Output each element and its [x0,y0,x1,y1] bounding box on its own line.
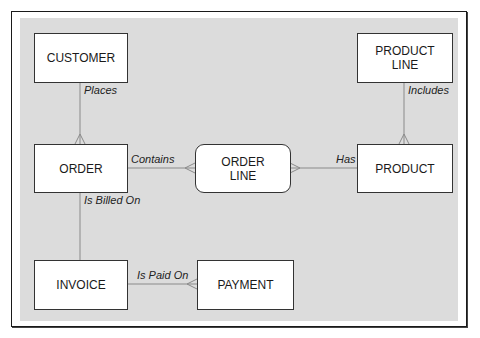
relationship-label-is-billed-on: Is Billed On [84,194,140,206]
entity-label: PRODUCT [375,162,434,176]
entity-label: PRODUCT LINE [375,44,434,72]
relationship-label-contains: Contains [131,153,174,165]
relationship-label-places: Places [84,84,117,96]
entity-payment[interactable]: PAYMENT [197,260,294,310]
entity-label: INVOICE [56,278,105,292]
entity-product-line[interactable]: PRODUCT LINE [357,33,453,83]
entity-order[interactable]: ORDER [34,144,128,193]
entity-label: ORDER [59,162,102,176]
relationship-label-has: Has [336,153,356,165]
entity-label: CUSTOMER [47,51,115,65]
relationship-label-includes: Includes [408,84,449,96]
entity-customer[interactable]: CUSTOMER [34,33,128,83]
entity-order-line[interactable]: ORDER LINE [195,144,291,193]
entity-product[interactable]: PRODUCT [357,144,453,193]
entity-invoice[interactable]: INVOICE [34,260,128,310]
entity-label: PAYMENT [217,278,273,292]
entity-label: ORDER LINE [221,155,264,183]
relationship-label-is-paid-on: Is Paid On [137,269,188,281]
